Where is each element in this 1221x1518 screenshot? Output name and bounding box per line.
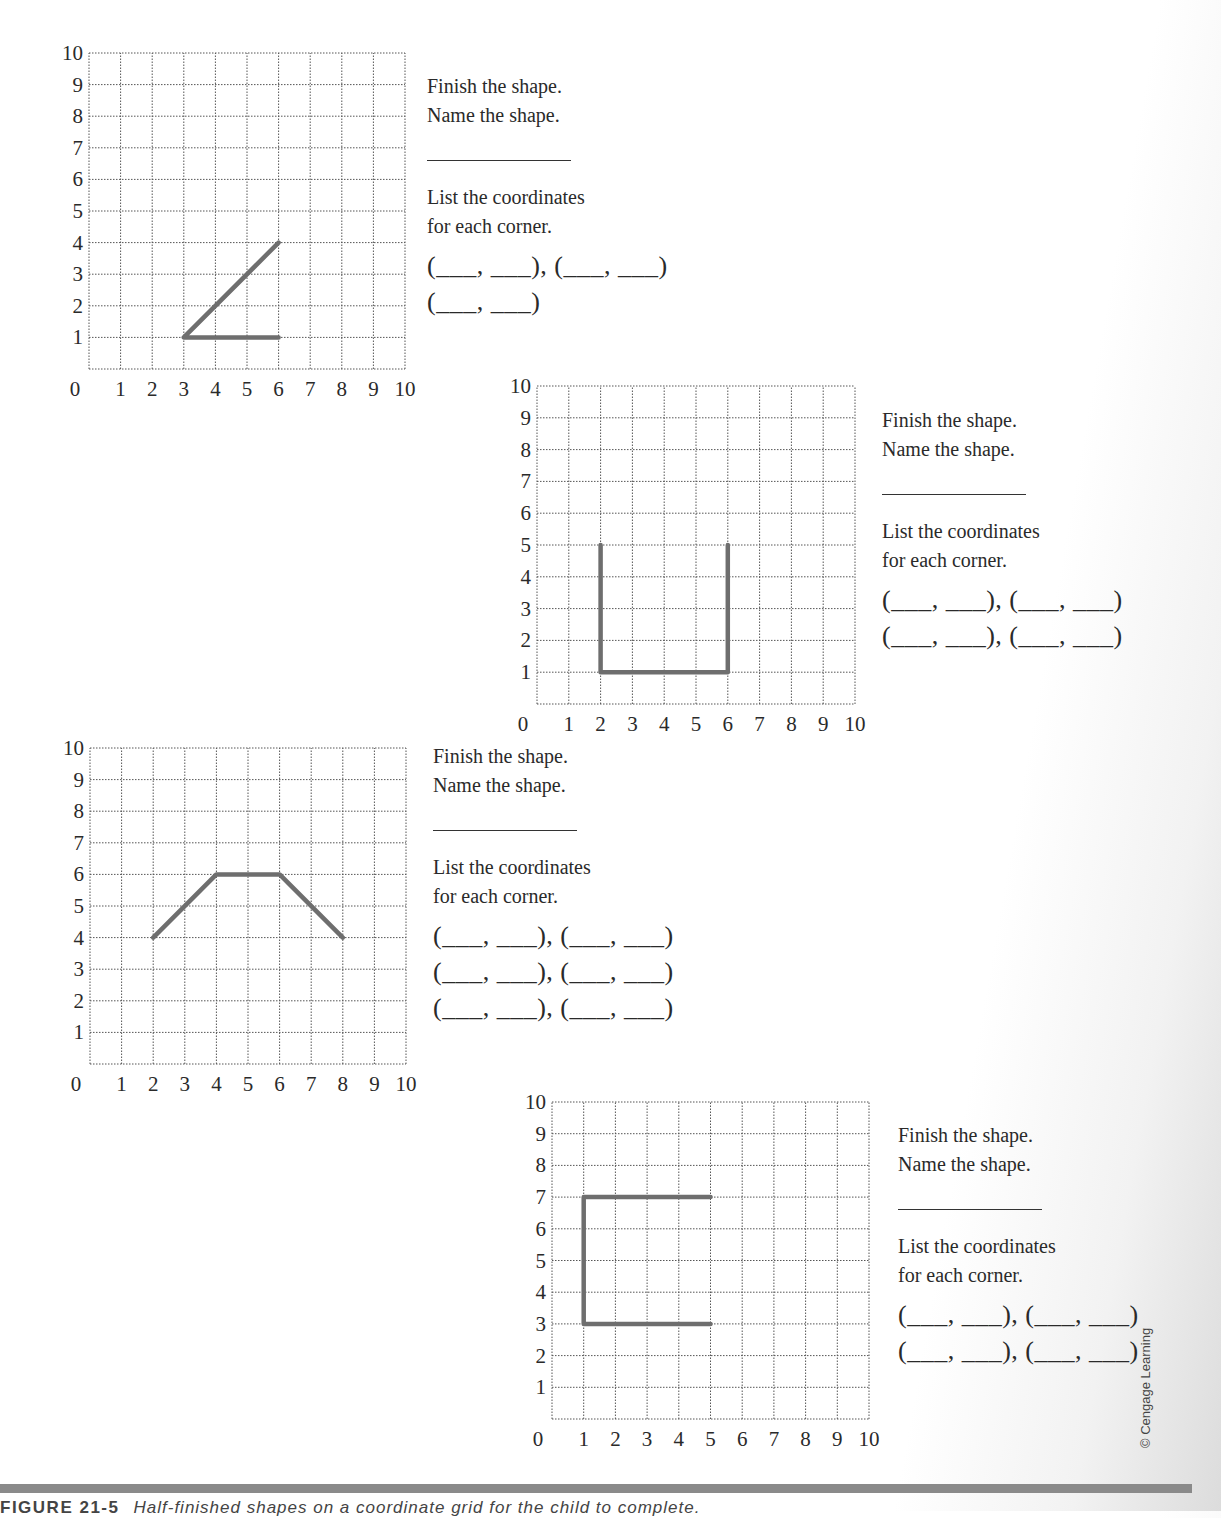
shape-name-answer-line[interactable] [427,160,571,161]
exercise-3-instructions: Finish the shape. Name the shape. List t… [433,742,674,1025]
shape-name-answer-line[interactable] [433,830,577,831]
y-axis-tick: 9 [521,406,532,430]
x-axis-tick: 8 [338,1072,349,1096]
y-axis-tick: 10 [525,1090,546,1114]
x-axis-tick: 4 [210,377,221,401]
coordinate-grid-3: 01234567891012345678910 [40,727,440,1097]
exercise-4-instructions: Finish the shape. Name the shape. List t… [898,1121,1139,1368]
y-axis-tick: 3 [536,1312,547,1336]
y-axis-tick: 2 [536,1344,547,1368]
copyright-credit: © Cengage Learning [1138,1328,1153,1448]
x-axis-tick: 7 [305,377,316,401]
instruction-corner: for each corner. [427,212,668,241]
x-axis-tick: 4 [674,1427,685,1451]
x-axis-tick: 1 [564,712,575,736]
coordinate-row[interactable]: (___, ___), (___, ___) [882,583,1123,617]
grid-svg-4: 01234567891012345678910 [510,1080,910,1450]
x-axis-tick: 5 [242,377,253,401]
y-axis-tick: 5 [521,533,532,557]
y-axis-tick: 10 [510,374,531,398]
x-axis-tick: 7 [306,1072,317,1096]
coordinate-grid-2: 01234567891012345678910 [495,364,895,734]
instruction-corner: for each corner. [433,882,674,911]
y-axis-tick: 9 [73,73,84,97]
y-axis-tick: 5 [74,894,85,918]
y-axis-tick: 10 [62,41,83,65]
y-axis-tick: 1 [74,1020,85,1044]
y-axis-tick: 9 [536,1122,547,1146]
coordinate-row[interactable]: (___, ___), (___, ___) [433,919,674,953]
y-axis-tick: 7 [521,469,532,493]
y-axis-tick: 1 [73,325,84,349]
x-axis-tick: 7 [754,712,765,736]
x-axis-tick: 6 [723,712,734,736]
x-axis-tick: 1 [115,377,126,401]
x-axis-tick: 6 [273,377,284,401]
instruction-name: Name the shape. [898,1150,1139,1179]
coordinate-row[interactable]: (___, ___), (___, ___) [898,1298,1139,1332]
grid-svg-2: 01234567891012345678910 [495,364,895,734]
coordinate-row[interactable]: (___, ___), (___, ___) [427,249,668,283]
y-axis-tick: 6 [536,1217,547,1241]
exercise-1-instructions: Finish the shape. Name the shape. List t… [427,72,668,319]
coordinate-answers: (___, ___), (___, ___) (___, ___), (___,… [882,583,1123,653]
instruction-name: Name the shape. [433,771,674,800]
x-axis-tick: 5 [243,1072,254,1096]
y-axis-tick: 4 [74,926,85,950]
x-axis-tick: 3 [179,377,190,401]
coordinate-answers: (___, ___), (___, ___) (___, ___), (___,… [898,1298,1139,1368]
instruction-finish: Finish the shape. [427,72,668,101]
x-axis-tick: 8 [337,377,348,401]
coordinate-grid-4: 01234567891012345678910 [510,1080,910,1450]
y-axis-tick: 1 [521,660,532,684]
x-axis-tick: 9 [818,712,829,736]
coordinate-answers: (___, ___), (___, ___) (___, ___) [427,249,668,319]
y-axis-tick: 7 [536,1185,547,1209]
grid-svg-1: 01234567891012345678910 [40,30,440,400]
coordinate-row[interactable]: (___, ___), (___, ___) [882,619,1123,653]
x-axis-tick: 10 [395,377,416,401]
y-axis-tick: 3 [521,597,532,621]
x-axis-tick: 3 [180,1072,191,1096]
x-axis-tick: 9 [832,1427,843,1451]
x-axis-tick: 6 [737,1427,748,1451]
instruction-name: Name the shape. [427,101,668,130]
y-axis-tick: 1 [536,1375,547,1399]
x-axis-tick: 1 [116,1072,127,1096]
y-axis-tick: 8 [73,104,84,128]
y-axis-tick: 4 [73,231,84,255]
x-axis-tick: 10 [859,1427,880,1451]
x-axis-tick: 2 [610,1427,621,1451]
y-axis-tick: 10 [63,736,84,760]
y-axis-tick: 6 [73,167,84,191]
y-axis-tick: 7 [74,831,85,855]
coordinate-row[interactable]: (___, ___), (___, ___) [433,955,674,989]
instruction-list: List the coordinates [882,517,1123,546]
x-axis-tick: 9 [368,377,379,401]
x-axis-tick: 1 [578,1427,589,1451]
x-axis-tick: 0 [71,1072,82,1096]
x-axis-tick: 0 [70,377,81,401]
y-axis-tick: 4 [521,565,532,589]
figure-caption: FIGURE 21-5Half-finished shapes on a coo… [0,1498,700,1518]
y-axis-tick: 5 [73,199,84,223]
instruction-list: List the coordinates [898,1232,1139,1261]
partial-shape [184,243,279,338]
page-divider-rule [0,1484,1192,1493]
coordinate-row[interactable]: (___, ___) [427,285,668,319]
x-axis-tick: 10 [396,1072,417,1096]
coordinate-row[interactable]: (___, ___), (___, ___) [898,1334,1139,1368]
x-axis-tick: 0 [518,712,529,736]
coordinate-row[interactable]: (___, ___), (___, ___) [433,991,674,1025]
y-axis-tick: 8 [74,799,85,823]
y-axis-tick: 3 [74,957,85,981]
x-axis-tick: 5 [691,712,702,736]
shape-name-answer-line[interactable] [898,1209,1042,1210]
instruction-finish: Finish the shape. [898,1121,1139,1150]
y-axis-tick: 4 [536,1280,547,1304]
instruction-finish: Finish the shape. [433,742,674,771]
grid-svg-3: 01234567891012345678910 [40,727,440,1097]
shape-name-answer-line[interactable] [882,494,1026,495]
x-axis-tick: 2 [595,712,606,736]
instruction-list: List the coordinates [433,853,674,882]
